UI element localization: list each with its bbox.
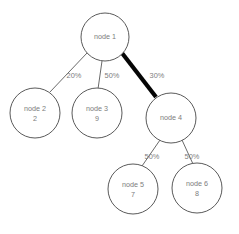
node-value-node3: 9 <box>95 114 99 123</box>
node-label-node6: node 6 <box>186 179 208 188</box>
edge-label-node1-node4: 30% <box>150 71 165 80</box>
edge-label-node1-node3: 50% <box>105 71 120 80</box>
node-label-node4: node 4 <box>160 113 182 122</box>
node-label-node1: node 1 <box>94 32 116 41</box>
edge-label-node4-node5: 50% <box>145 152 160 161</box>
edge-node1-node3 <box>98 61 102 89</box>
tree-diagram-container: node 1 node 2 2 node 3 9 node 4 node 5 7… <box>0 0 239 234</box>
edge-label-node1-node2: 20% <box>67 71 82 80</box>
node-label-node3: node 3 <box>86 104 108 113</box>
node-value-node5: 7 <box>131 190 135 199</box>
edge-label-node4-node6: 50% <box>185 152 200 161</box>
node-label-node5: node 5 <box>122 180 144 189</box>
node-label-node2: node 2 <box>24 104 46 113</box>
tree-diagram-canvas: node 1 node 2 2 node 3 9 node 4 node 5 7… <box>0 0 239 234</box>
node-value-node6: 8 <box>195 189 199 198</box>
node-value-node2: 2 <box>33 114 37 123</box>
